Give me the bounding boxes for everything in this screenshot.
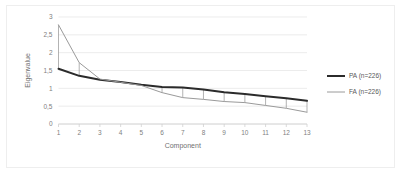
gridlines-group <box>59 17 308 124</box>
chart-canvas: 00,511,522,53 12345678910111213 Componen… <box>0 0 407 180</box>
x-tick-label-5: 5 <box>140 129 144 136</box>
y-tick-label-5: 2,5 <box>43 31 52 38</box>
series-line-fa <box>59 25 308 112</box>
x-tick-label-1: 1 <box>57 129 61 136</box>
y-axis-title: Eigenvalue <box>24 53 32 88</box>
y-tick-label-4: 2 <box>49 49 53 56</box>
scree-plot-figure: 00,511,522,53 12345678910111213 Componen… <box>0 0 407 180</box>
x-axis-title: Component <box>165 142 201 150</box>
x-tick-label-10: 10 <box>241 129 249 136</box>
x-tick-label-6: 6 <box>160 129 164 136</box>
x-tick-label-7: 7 <box>181 129 185 136</box>
y-tick-label-0: 0 <box>49 120 53 127</box>
y-tick-label-1: 0,5 <box>43 103 52 110</box>
x-tick-labels-group: 12345678910111213 <box>57 129 311 136</box>
x-tick-label-2: 2 <box>77 129 81 136</box>
y-tick-label-3: 1,5 <box>43 67 52 74</box>
axis-lines-group <box>59 124 308 127</box>
y-tick-label-2: 1 <box>49 85 53 92</box>
x-tick-label-13: 13 <box>303 129 311 136</box>
x-tick-label-3: 3 <box>98 129 102 136</box>
x-tick-label-8: 8 <box>202 129 206 136</box>
legend-label-fa: FA (n=226) <box>349 88 381 96</box>
connector-lines-group <box>59 25 308 112</box>
x-tick-label-4: 4 <box>119 129 123 136</box>
y-tick-labels-group: 00,511,522,53 <box>43 13 52 127</box>
y-tick-label-6: 3 <box>49 13 53 20</box>
x-tick-label-9: 9 <box>222 129 226 136</box>
x-tick-label-12: 12 <box>283 129 291 136</box>
chart-legend: PA (n=226)FA (n=226) <box>327 72 381 96</box>
series-lines-group <box>59 25 308 112</box>
x-tick-label-11: 11 <box>262 129 269 136</box>
legend-label-pa: PA (n=226) <box>349 72 381 80</box>
